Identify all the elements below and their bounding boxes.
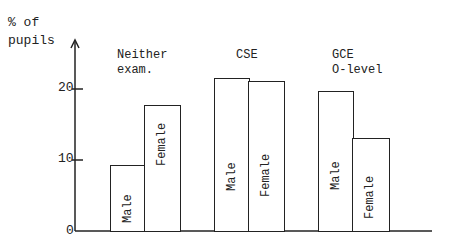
- group-label-neither: Neither exam.: [117, 48, 167, 78]
- bar-neither-male: Male: [110, 165, 146, 232]
- bar-neither-female: Female: [144, 105, 181, 232]
- bar-label-male: Male: [329, 161, 343, 190]
- bar-gce-female: Female: [352, 138, 390, 232]
- bar-label-female: Female: [259, 154, 273, 197]
- group-label-cse: CSE: [236, 48, 258, 63]
- bar-label-male: Male: [121, 194, 135, 223]
- y-tick-20: 20: [58, 80, 74, 95]
- bar-label-female: Female: [155, 123, 169, 166]
- y-axis-title-line1: % of: [8, 14, 55, 32]
- y-axis-title-line2: pupils: [8, 32, 55, 50]
- bar-cse-male: Male: [214, 78, 250, 232]
- bar-cse-female: Female: [248, 81, 285, 232]
- group-label-gce: GCE O-level: [332, 48, 382, 78]
- y-axis-title: % of pupils: [8, 14, 55, 50]
- y-tick-10: 10: [58, 151, 74, 166]
- bar-label-female: Female: [363, 176, 377, 219]
- bar-gce-male: Male: [318, 91, 354, 232]
- bar-label-male: Male: [225, 162, 239, 191]
- y-tick-0: 0: [66, 223, 74, 238]
